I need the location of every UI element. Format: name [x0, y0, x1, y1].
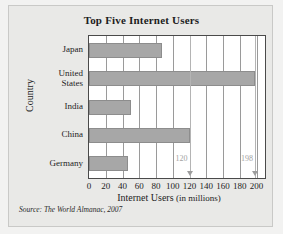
annotation-label-120: 120: [164, 154, 188, 163]
category-label-india: India: [21, 101, 83, 111]
category-label-line: States: [21, 78, 83, 88]
x-tick-200: 200: [245, 181, 269, 191]
chart-title: Top Five Internet Users: [9, 14, 274, 26]
annotation-line-198: [255, 36, 256, 178]
annotation-line-120: [190, 36, 191, 178]
category-label-japan: Japan: [21, 44, 83, 54]
bar-germany: [89, 156, 128, 171]
category-label-germany: Germany: [21, 158, 83, 168]
category-label-united-states: UnitedStates: [21, 68, 83, 88]
bar-united-states: [89, 71, 255, 86]
annotation-arrow-198: [252, 171, 258, 176]
source-note: Source: The World Almanac, 2007: [19, 205, 122, 214]
bar-china: [89, 128, 190, 143]
gridline-140: [206, 36, 207, 178]
x-axis-title-sub: (in millions): [176, 193, 221, 203]
x-axis-title: Internet Users (in millions): [69, 192, 269, 203]
bar-india: [89, 100, 131, 115]
category-label-line: United: [21, 68, 83, 78]
x-axis-title-main: Internet Users: [117, 192, 173, 203]
gridline-200: [257, 36, 258, 178]
annotation-arrow-120: [187, 171, 193, 176]
category-label-china: China: [21, 129, 83, 139]
bar-japan: [89, 43, 162, 58]
annotation-label-198: 198: [229, 154, 253, 163]
gridline-160: [223, 36, 224, 178]
figure-panel: Top Five Internet Users Country JapanUni…: [8, 5, 273, 227]
